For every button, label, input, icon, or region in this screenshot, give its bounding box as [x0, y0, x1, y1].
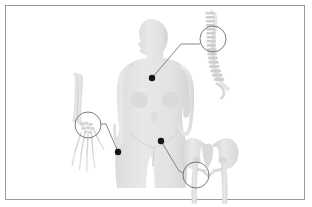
silhouette-waist-shade — [151, 112, 158, 123]
marker-dot-wrist[interactable] — [115, 149, 121, 155]
femoral-head-right — [218, 156, 226, 163]
osteoporosis-figure — [0, 0, 312, 207]
forearm-and-hand-illustration — [72, 73, 104, 171]
silhouette-head — [138, 19, 168, 61]
vertebral-column-illustration — [206, 10, 231, 100]
figure-canvas — [0, 0, 312, 207]
marker-dot-hip[interactable] — [158, 138, 164, 144]
pelvis-and-femurs-illustration — [181, 139, 238, 204]
carpal-bones — [80, 122, 95, 134]
marker-dot-spine[interactable] — [149, 75, 155, 81]
sacrum-bone — [203, 144, 213, 168]
